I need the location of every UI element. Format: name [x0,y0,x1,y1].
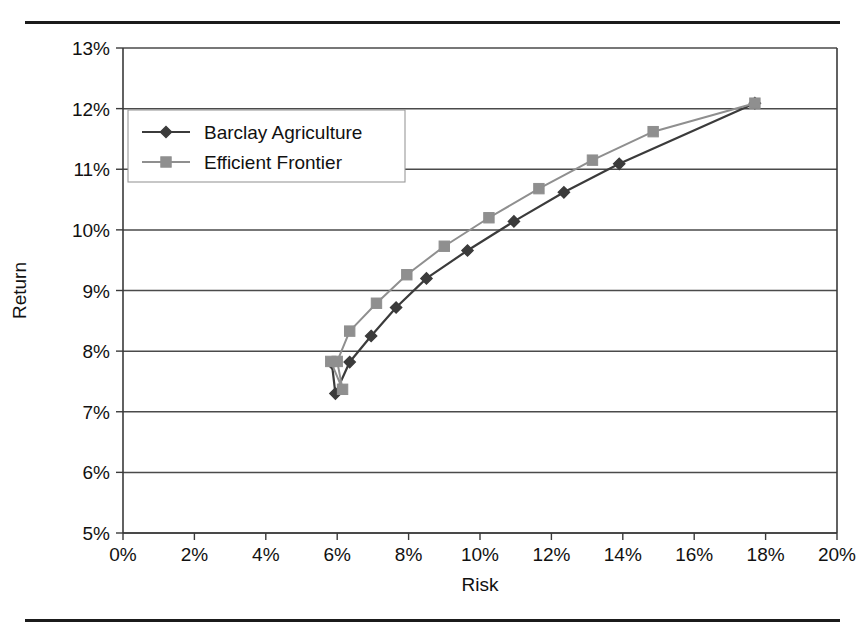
legend-marker-square [161,157,171,167]
chart-svg: 0%2%4%6%8%10%12%14%16%18%20% 5%6%7%8%9%1… [0,26,864,616]
series-marker-square [371,298,381,308]
series-marker-square [439,241,449,251]
chart-legend[interactable]: Barclay AgricultureEfficient Frontier [128,110,405,182]
x-tick-label: 20% [818,544,856,565]
series-marker-square [534,183,544,193]
series-marker-square [648,126,658,136]
x-tick-label: 4% [252,544,280,565]
legend-label: Barclay Agriculture [204,122,362,143]
x-tick-label: 10% [461,544,499,565]
series-marker-diamond [558,187,569,198]
series-marker-diamond [614,158,625,169]
series-marker-square [344,326,354,336]
x-tick-label: 14% [604,544,642,565]
series-marker-square [587,155,597,165]
x-tick-labels: 0%2%4%6%8%10%12%14%16%18%20% [109,544,856,565]
y-tick-label: 9% [83,281,111,302]
y-tick-label: 11% [73,159,110,180]
y-tick-label: 13% [72,38,110,59]
clipped-header-text [180,0,700,2]
y-tick-label: 12% [72,99,110,120]
series-marker-square [402,270,412,280]
series-marker-square [332,356,342,366]
x-axis-title: Risk [462,574,499,595]
y-tick-label: 6% [83,462,111,483]
y-axis-title: Return [9,262,30,319]
horizontal-rule-top [25,21,840,24]
series-marker-square [484,213,494,223]
risk-return-chart: 0%2%4%6%8%10%12%14%16%18%20% 5%6%7%8%9%1… [0,26,864,616]
y-tick-label: 8% [83,341,111,362]
x-tick-label: 18% [747,544,785,565]
y-tick-label: 7% [83,402,111,423]
series-marker-square [750,98,760,108]
document-page: 0%2%4%6%8%10%12%14%16%18%20% 5%6%7%8%9%1… [0,0,864,633]
x-tick-label: 0% [109,544,137,565]
y-tick-labels: 5%6%7%8%9%10%11%12%13% [72,38,110,544]
horizontal-rule-bottom [25,619,840,622]
x-tick-label: 2% [181,544,209,565]
x-tick-label: 16% [675,544,713,565]
y-tick-label: 10% [72,220,110,241]
series-marker-square [337,384,347,394]
x-tick-label: 8% [395,544,423,565]
x-tick-label: 6% [323,544,351,565]
legend-label: Efficient Frontier [204,152,343,173]
x-tick-label: 12% [532,544,570,565]
series-marker-diamond [508,216,519,227]
y-tick-label: 5% [83,523,111,544]
